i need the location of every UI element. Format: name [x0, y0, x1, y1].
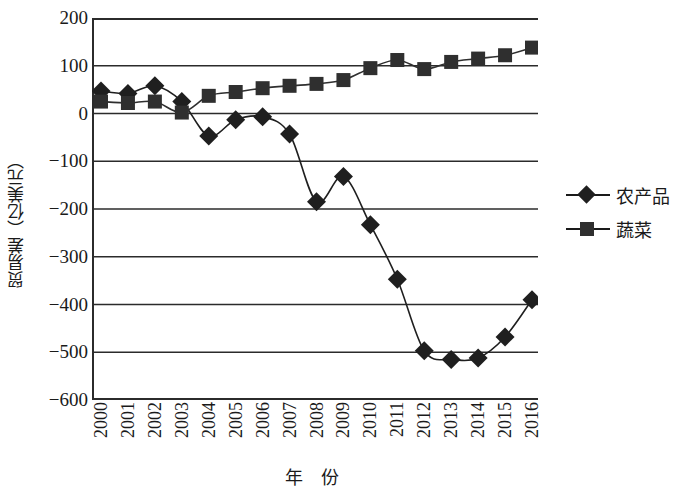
legend-label-agricultural-products: 农产品: [616, 182, 670, 208]
legend-swatch-diamond-icon: [566, 186, 610, 204]
data-point-square-marker: [417, 62, 431, 76]
data-point-square-marker: [525, 41, 538, 55]
data-point-diamond-marker: [523, 290, 539, 309]
x-axis-tick-label: 2009: [333, 402, 353, 460]
data-point-square-marker: [336, 73, 350, 87]
x-axis-tick-label: 2002: [145, 402, 165, 460]
plot-area: [92, 18, 538, 400]
data-point-diamond-marker: [388, 270, 407, 289]
data-point-square-marker: [148, 95, 162, 109]
x-axis-title: 年 份: [92, 463, 538, 489]
data-point-square-marker: [229, 85, 243, 99]
data-point-square-marker: [256, 81, 270, 95]
x-axis-tick-label: 2000: [91, 402, 111, 460]
x-axis-tick-label: 2005: [226, 402, 246, 460]
data-point-diamond-marker: [361, 215, 380, 234]
data-point-square-marker: [94, 95, 108, 109]
x-axis-tick-label: 2006: [253, 402, 273, 460]
y-axis-tick-label: −400: [26, 295, 88, 314]
data-point-square-marker: [363, 61, 377, 75]
y-axis-tick-label: −300: [26, 247, 88, 266]
x-axis-tick-label: 2008: [307, 402, 327, 460]
x-axis-tick-label: 2016: [522, 402, 542, 460]
x-axis-tick-label: 2014: [468, 402, 488, 460]
data-point-square-marker: [310, 77, 324, 91]
legend-item-agricultural-products: 农产品: [566, 178, 678, 212]
trade-balance-line-chart: 贸易差（亿美元） 2001000−100−200−300−400−500−600…: [0, 0, 678, 497]
y-axis-tick-label: −600: [26, 390, 88, 409]
series-line: [101, 86, 532, 361]
data-point-diamond-marker: [469, 348, 488, 367]
y-axis-tick-label: −200: [26, 199, 88, 218]
data-point-square-marker: [202, 89, 216, 103]
data-point-square-marker: [390, 53, 404, 67]
data-point-square-marker: [121, 96, 135, 110]
x-axis-tick-label: 2004: [199, 402, 219, 460]
data-point-square-marker: [498, 48, 512, 62]
x-axis-tick-labels: 2000200120022003200420052006200720082009…: [92, 402, 538, 464]
data-point-diamond-marker: [253, 107, 272, 126]
x-axis-tick-label: 2011: [387, 402, 407, 460]
x-axis-tick-label: 2010: [360, 402, 380, 460]
data-point-diamond-marker: [280, 125, 299, 144]
y-axis-tick-label: 100: [26, 56, 88, 75]
legend-item-vegetables: 蔬菜: [566, 212, 678, 246]
x-axis-tick-label: 2007: [280, 402, 300, 460]
y-axis-tick-label: 0: [26, 104, 88, 123]
x-axis-tick-label: 2015: [495, 402, 515, 460]
plot-canvas: [92, 18, 538, 400]
legend-swatch-square-icon: [566, 220, 610, 238]
data-point-square-marker: [283, 79, 297, 93]
y-axis-tick-label: −100: [26, 151, 88, 170]
data-point-square-marker: [471, 52, 485, 66]
data-point-square-marker: [444, 55, 458, 69]
y-axis-tick-label: −500: [26, 342, 88, 361]
y-axis-tick-label: 200: [26, 8, 88, 27]
x-axis-tick-label: 2003: [172, 402, 192, 460]
data-point-diamond-marker: [145, 76, 164, 95]
x-axis-tick-label: 2013: [441, 402, 461, 460]
x-axis-tick-label: 2012: [414, 402, 434, 460]
legend-label-vegetables: 蔬菜: [616, 216, 652, 242]
chart-legend: 农产品 蔬菜: [566, 178, 678, 246]
data-point-square-marker: [175, 106, 189, 120]
y-axis-tick-labels: 2001000−100−200−300−400−500−600: [22, 0, 88, 497]
x-axis-tick-label: 2001: [118, 402, 138, 460]
